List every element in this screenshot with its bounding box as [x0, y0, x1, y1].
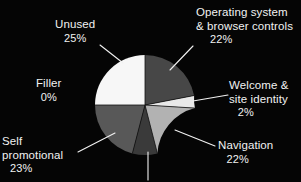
slice-value-self-promotional: 23% [2, 162, 63, 176]
slice-value-welcome: 2% [229, 106, 288, 120]
slice-label-welcome-line2: site identity [229, 93, 288, 105]
pie-chart-screenshot: Operating system & browser controls 22% … [0, 0, 301, 182]
slice-label-operating-system-line1: Operating system [196, 6, 288, 18]
slice-label-self-line2: promotional [2, 149, 63, 161]
slice-label-self-line1: Self [2, 135, 22, 147]
slice-value-operating-system: 22% [196, 33, 293, 47]
slice-value-filler: 0% [36, 91, 62, 105]
slice-label-filler-line1: Filler [36, 77, 62, 89]
slice-label-navigation: Navigation 22% [218, 139, 273, 166]
slice-label-welcome-site-identity: Welcome & site identity 2% [229, 79, 288, 120]
slice-label-unused: Unused 25% [55, 18, 95, 45]
slice-label-self-promotional: Self promotional 23% [2, 135, 63, 176]
slice-label-operating-system: Operating system & browser controls 22% [196, 6, 293, 47]
slice-value-unused: 25% [55, 32, 95, 46]
slice-label-operating-system-line2: & browser controls [196, 20, 293, 32]
slice-label-navigation-line1: Navigation [218, 139, 273, 151]
slice-label-unused-line1: Unused [55, 18, 95, 30]
slice-value-navigation: 22% [218, 153, 273, 167]
slice-label-filler: Filler 0% [36, 77, 62, 104]
slice-label-welcome-line1: Welcome & [229, 79, 288, 91]
